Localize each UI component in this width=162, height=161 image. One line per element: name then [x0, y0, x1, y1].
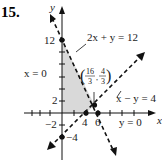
svg-text:3: 3 — [101, 77, 105, 86]
y-axis-arrow-icon — [59, 6, 65, 14]
graph: 15. y x 12 2 −2 −4 4 6 2x + y = 12 x − y… — [0, 0, 162, 161]
arrow-down-right-icon — [110, 147, 117, 156]
svg-text:(: ( — [80, 67, 85, 85]
label-x-minus-y-eq-4: x − y = 4 — [116, 92, 156, 104]
problem-number: 15. — [1, 4, 20, 20]
y-axis-label: y — [49, 1, 55, 13]
y-tick-neg4: −4 — [66, 131, 78, 143]
point-4-0 — [83, 110, 88, 115]
label-y-eq-0: y = 0 — [119, 116, 142, 128]
x-axis-label: x — [156, 114, 162, 126]
intersection-label: ( 16 3 , 4 3 ) — [80, 67, 111, 86]
point-0-neg4 — [59, 134, 64, 139]
label-2x-plus-y-eq-12: 2x + y = 12 — [87, 31, 138, 43]
arrow-up-right-icon — [136, 52, 145, 61]
point-6-0 — [95, 110, 100, 115]
svg-text:): ) — [106, 67, 111, 85]
point-16-3-4-3 — [92, 102, 97, 107]
y-tick-12: 12 — [44, 34, 55, 46]
x-tick-4: 4 — [82, 116, 88, 128]
svg-text:16: 16 — [86, 67, 94, 76]
svg-text:,: , — [96, 73, 98, 82]
label-x-eq-0: x = 0 — [24, 67, 47, 79]
arrow-down-left-icon — [47, 141, 56, 150]
x-axis-arrow-icon — [148, 110, 156, 116]
svg-text:3: 3 — [88, 77, 92, 86]
y-tick-neg2: −2 — [45, 118, 57, 130]
leader-2x-plus-y — [76, 44, 86, 52]
svg-text:4: 4 — [101, 67, 105, 76]
point-0-12 — [59, 37, 64, 42]
y-tick-2: 2 — [52, 94, 58, 106]
x-tick-6: 6 — [95, 116, 101, 128]
